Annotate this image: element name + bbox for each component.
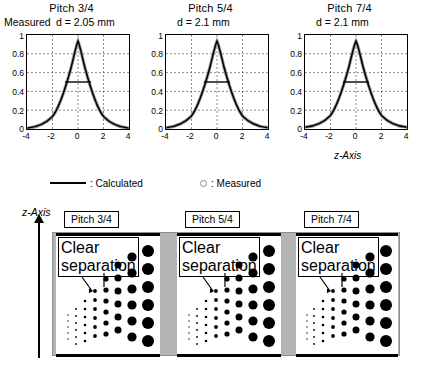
cell-title-pitch-5-4: Pitch 5/4 [185,211,240,228]
plot-panel-pitch-7-4: Pitch 7/4 d = 2.1 mm 1 0.8 0.6 0.4 0.2 0 [282,0,417,200]
panel-subcaption: d = 2.1 mm [282,16,417,30]
image-strip-background: Pitch 3/4 Clear separation [52,232,400,356]
y-tick-0-6: 0.6 [8,69,24,77]
y-tick-0-2: 0.2 [8,107,24,115]
panel-title: Pitch 5/4 [143,2,278,14]
y-tick-0-6: 0.6 [286,69,302,77]
x-tick-2: 2 [374,132,388,140]
y-tick-1: 1 [147,32,163,40]
legend-label-calculated: : Calculated [90,178,143,189]
phantom-cell-pitch-7-4: Pitch 7/4 Clear separation [296,235,398,355]
legend-entry-measured: : Measured [200,178,261,189]
legend-entry-calculated: : Calculated [50,178,143,189]
plot-canvas [165,34,269,130]
y-tick-0-8: 0.8 [286,50,302,58]
phantom-cell-pitch-5-4: Pitch 5/4 Clear separation [177,235,281,355]
x-tick-4: 4 [260,132,274,140]
y-tick-0-6: 0.6 [147,69,163,77]
x-tick-neg2: -2 [44,132,58,140]
panel-title: Pitch 3/4 [4,2,139,14]
y-tick-0-4: 0.4 [8,88,24,96]
x-tick-neg4: -4 [19,132,33,140]
plot-area-wrapper: 1 0.8 0.6 0.4 0.2 0 [147,30,275,148]
phantom-dot-pattern [296,235,398,355]
cell-title-pitch-3-4: Pitch 3/4 [64,211,119,228]
phantom-cell-pitch-3-4: Pitch 3/4 Clear separation [56,235,160,355]
cell-title-pitch-7-4: Pitch 7/4 [304,211,359,228]
x-tick-0: 0 [348,132,362,140]
plot-panel-pitch-5-4: Pitch 5/4 d = 2.1 mm 1 0.8 0.6 0.4 0.2 0 [143,0,278,200]
x-tick-4: 4 [399,132,413,140]
phantom-dot-pattern [177,235,281,355]
x-tick-neg2: -2 [183,132,197,140]
x-tick-0: 0 [70,132,84,140]
y-tick-0-8: 0.8 [8,50,24,58]
z-axis-arrow-icon [38,222,40,358]
y-tick-1: 1 [286,32,302,40]
plot-panel-group: Pitch 3/4 Measured d = 2.05 mm 1 0.8 0.6… [0,0,422,200]
plot-canvas [304,34,408,130]
circle-swatch-icon [200,180,207,187]
panel-subcaption: d = 2.1 mm [143,16,278,30]
x-tick-neg2: -2 [322,132,336,140]
panel-subcaption: Measured d = 2.05 mm [4,16,139,30]
plot-area-wrapper: 1 0.8 0.6 0.4 0.2 0 [286,30,414,148]
y-tick-0-4: 0.4 [147,88,163,96]
y-tick-0-2: 0.2 [147,107,163,115]
phantom-dot-pattern [56,235,160,355]
d-value-annotation: d = 2.1 mm [177,16,230,28]
x-tick-2: 2 [96,132,110,140]
x-tick-0: 0 [209,132,223,140]
y-tick-0-2: 0.2 [286,107,302,115]
y-tick-0-8: 0.8 [147,50,163,58]
x-tick-2: 2 [235,132,249,140]
line-swatch-icon [50,182,86,184]
d-value-annotation: d = 2.1 mm [316,16,369,28]
panel-title: Pitch 7/4 [282,2,417,14]
phantom-image-figure: z-Axis Pitch 3/4 Clear separation [0,206,422,368]
plot-canvas [26,34,130,130]
x-axis-title: z-Axis [334,150,361,161]
measured-annotation: Measured [4,16,51,28]
legend-label-measured: : Measured [211,178,261,189]
plot-area-wrapper: 1 0.8 0.6 0.4 0.2 0 [8,30,136,148]
d-value-annotation: d = 2.05 mm [56,16,115,28]
x-tick-neg4: -4 [297,132,311,140]
plot-panel-pitch-3-4: Pitch 3/4 Measured d = 2.05 mm 1 0.8 0.6… [4,0,139,200]
x-tick-4: 4 [121,132,135,140]
y-tick-1: 1 [8,32,24,40]
x-tick-neg4: -4 [158,132,172,140]
y-tick-0-4: 0.4 [286,88,302,96]
chart-legend: : Calculated : Measured [50,178,380,196]
